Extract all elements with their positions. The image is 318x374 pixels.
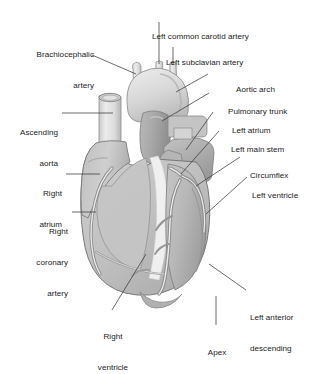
ascending-aorta-lumen-inner — [103, 95, 118, 100]
label-line: artery — [2, 81, 94, 91]
label-brachiocephalic-artery: Brachiocephalic artery — [2, 29, 94, 112]
label-left-anterior-descending: Left anterior descending — [250, 292, 318, 374]
label-left-ventricle: Left ventricle — [252, 170, 318, 222]
leader-left-ventricle — [206, 177, 247, 214]
label-line: atrium — [10, 220, 62, 230]
label-apex: Apex — [198, 327, 236, 374]
label-line: Apex — [198, 348, 236, 358]
label-line: artery — [6, 289, 68, 299]
label-ascending-aorta: Ascending aorta — [2, 107, 58, 190]
leader-left-anterior-descending — [209, 264, 246, 290]
label-line: descending — [250, 344, 318, 354]
leader-brachiocephalic — [92, 55, 136, 74]
label-line: Right — [84, 332, 142, 342]
label-line: Brachiocephalic — [2, 50, 94, 60]
label-line: Left anterior — [250, 313, 318, 323]
pulmonary-vein-stub — [174, 128, 192, 139]
label-line: Right — [10, 189, 62, 199]
label-line: aorta — [2, 159, 58, 169]
label-right-ventricle: Right ventricle — [84, 311, 142, 374]
label-line: ventricle — [84, 363, 142, 373]
label-line: Ascending — [2, 128, 58, 138]
heart-body-group — [81, 141, 210, 308]
label-line: coronary — [6, 258, 68, 268]
label-line: Left ventricle — [252, 191, 318, 201]
